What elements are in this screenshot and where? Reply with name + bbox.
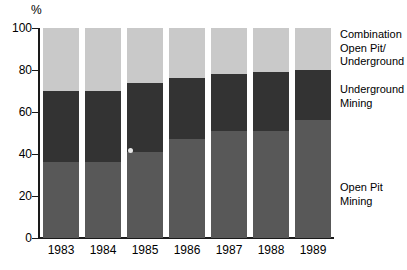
bar-segment-open_pit	[211, 131, 247, 238]
bar-segment-combination	[295, 28, 331, 70]
y-tick-label: 40	[6, 148, 32, 160]
x-axis-label-1988: 1988	[258, 244, 285, 256]
bar-segment-combination	[169, 28, 205, 78]
y-tick-mark	[32, 70, 38, 71]
x-axis-label-1983: 1983	[48, 244, 75, 256]
bar-segment-underground	[211, 74, 247, 131]
bar-segment-open_pit	[169, 139, 205, 238]
bar-segment-open_pit	[253, 131, 289, 238]
bar-segment-combination	[43, 28, 79, 91]
legend-item-underground: Underground Mining	[340, 83, 404, 110]
bar-segment-open_pit	[127, 152, 163, 238]
scan-artifact-speck	[128, 148, 133, 153]
legend-open-pit-line1: Open Pit	[340, 181, 383, 195]
bar-segment-underground	[253, 72, 289, 131]
y-tick-mark	[32, 112, 38, 113]
legend-item-open-pit: Open Pit Mining	[340, 181, 383, 208]
y-tick-label: 0	[6, 232, 32, 244]
legend-item-combination: Combination Open Pit/ Underground	[340, 28, 404, 69]
bar-1986	[169, 28, 205, 238]
legend-underground-line1: Underground	[340, 83, 404, 97]
y-tick-label: 80	[6, 64, 32, 76]
bar-segment-combination	[127, 28, 163, 83]
bar-1988	[253, 28, 289, 238]
y-tick-label: 20	[6, 190, 32, 202]
y-tick-mark	[32, 238, 38, 239]
bar-1984	[85, 28, 121, 238]
stacked-bar-chart: % 020406080100 1983198419851986198719881…	[0, 0, 407, 270]
legend-combination-line1: Combination	[340, 28, 404, 42]
x-axis-label-1987: 1987	[216, 244, 243, 256]
legend-open-pit-line2: Mining	[340, 195, 383, 209]
y-axis-unit-label: %	[31, 4, 42, 16]
plot-area	[40, 28, 334, 238]
y-tick-mark	[32, 196, 38, 197]
bar-segment-combination	[85, 28, 121, 91]
bar-segment-open_pit	[295, 120, 331, 238]
x-axis-label-1984: 1984	[90, 244, 117, 256]
bar-segment-underground	[85, 91, 121, 162]
bar-segment-underground	[43, 91, 79, 162]
bar-segment-combination	[253, 28, 289, 72]
x-axis-label-1989: 1989	[300, 244, 327, 256]
bar-segment-underground	[127, 83, 163, 152]
bar-segment-underground	[295, 70, 331, 120]
bar-segment-open_pit	[43, 162, 79, 238]
bar-1987	[211, 28, 247, 238]
y-tick-mark	[32, 154, 38, 155]
y-tick-mark	[32, 28, 38, 29]
x-axis-label-1986: 1986	[174, 244, 201, 256]
bar-1985	[127, 28, 163, 238]
bar-1989	[295, 28, 331, 238]
bar-segment-combination	[211, 28, 247, 74]
legend-combination-line3: Underground	[340, 55, 404, 69]
bar-segment-underground	[169, 78, 205, 139]
bar-1983	[43, 28, 79, 238]
y-tick-label: 100	[6, 22, 32, 34]
x-axis-label-1985: 1985	[132, 244, 159, 256]
legend-combination-line2: Open Pit/	[340, 42, 404, 56]
bar-segment-open_pit	[85, 162, 121, 238]
y-tick-label: 60	[6, 106, 32, 118]
legend-underground-line2: Mining	[340, 97, 404, 111]
